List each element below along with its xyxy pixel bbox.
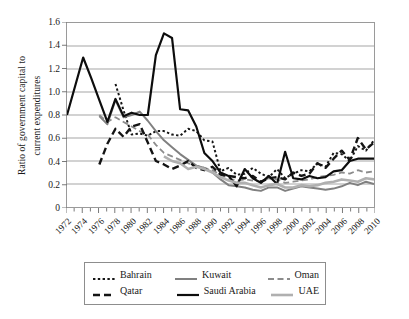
y-axis-title-line1: Ratio of government capital to bbox=[14, 18, 30, 213]
x-axis-tick-marks bbox=[66, 208, 375, 214]
legend-label: UAE bbox=[298, 285, 319, 297]
legend-row: QatarSaudi ArabiaUAE bbox=[93, 283, 319, 299]
legend-label: Qatar bbox=[120, 285, 142, 297]
y-axis-tick-label: 0.2 bbox=[34, 180, 60, 190]
legend-item-qatar[interactable]: Qatar bbox=[93, 285, 177, 297]
y-axis-tick-label: 0 bbox=[34, 203, 60, 213]
legend-label: Bahrain bbox=[120, 269, 152, 281]
y-axis-tick-marks bbox=[61, 22, 67, 208]
legend-swatch-icon bbox=[93, 270, 115, 280]
legend-item-bahrain[interactable]: Bahrain bbox=[93, 269, 175, 281]
legend-swatch-icon bbox=[268, 270, 290, 280]
series-line-kuwait bbox=[99, 100, 374, 191]
legend-row: BahrainKuwaitOman bbox=[93, 267, 319, 283]
y-axis-tick-label: 1.6 bbox=[34, 17, 60, 27]
legend-swatch-icon bbox=[175, 270, 197, 280]
y-axis-tick-label: 1.2 bbox=[34, 64, 60, 74]
y-axis-tick-label: 1.4 bbox=[34, 40, 60, 50]
legend-label: Oman bbox=[295, 269, 319, 281]
legend-item-oman[interactable]: Oman bbox=[268, 269, 319, 281]
legend-swatch-icon bbox=[93, 286, 115, 296]
plot-area bbox=[66, 22, 375, 208]
chart-legend: BahrainKuwaitOmanQatarSaudi ArabiaUAE bbox=[84, 262, 326, 305]
y-axis-tick-label: 0.4 bbox=[34, 157, 60, 167]
y-axis-tick-label: 0.6 bbox=[34, 133, 60, 143]
legend-item-uae[interactable]: UAE bbox=[271, 285, 319, 297]
y-axis-tick-label: 0.8 bbox=[34, 110, 60, 120]
legend-swatch-icon bbox=[177, 286, 199, 296]
chart-figure: Ratio of government capital to current e… bbox=[0, 0, 409, 319]
legend-item-saudi-arabia[interactable]: Saudi Arabia bbox=[177, 285, 272, 297]
y-axis-tick-label: 1.0 bbox=[34, 87, 60, 97]
series-line-bahrain bbox=[115, 84, 374, 178]
legend-label: Saudi Arabia bbox=[204, 285, 256, 297]
legend-swatch-icon bbox=[271, 286, 293, 296]
legend-item-kuwait[interactable]: Kuwait bbox=[175, 269, 268, 281]
legend-label: Kuwait bbox=[202, 269, 231, 281]
data-series-layer bbox=[67, 23, 374, 207]
